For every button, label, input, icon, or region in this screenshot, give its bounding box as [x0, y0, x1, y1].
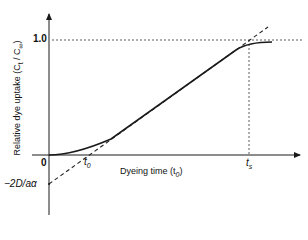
- y-axis-label: Relative dye uptake (Ct / C∞): [12, 38, 24, 158]
- t0-sub: 0: [87, 162, 91, 169]
- intercept-point: [48, 183, 50, 185]
- y-axis-label-text: Relative dye uptake (C: [12, 64, 22, 155]
- y-axis-label-sub2: ∞: [17, 43, 24, 48]
- ts-sub: s: [249, 163, 253, 170]
- y-axis-label-end: ): [12, 40, 22, 43]
- t0-label: t0: [84, 156, 91, 169]
- ts-label: ts: [246, 157, 252, 170]
- intercept-label: −2D/aα: [4, 178, 37, 189]
- tick-1-0: 1.0: [33, 33, 47, 44]
- y-axis-label-mid: / C: [12, 48, 22, 62]
- x-axis-label-end: ): [179, 166, 182, 176]
- x-axis-label-text: Dyeing time (t: [120, 166, 176, 176]
- tick-origin: 0: [41, 157, 47, 168]
- x-axis-label: Dyeing time (t0): [120, 166, 182, 178]
- uptake-curve: [49, 42, 272, 155]
